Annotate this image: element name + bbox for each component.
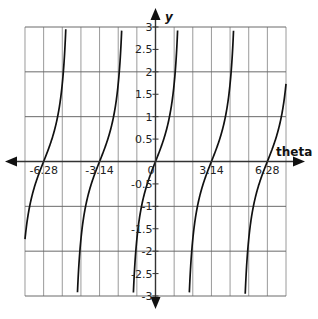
tan-curve-branch [245, 84, 286, 294]
y-tick-label: 2.5 [135, 43, 153, 56]
chart: -6.28-3.1403.146.2832.521.510.5-0.5-1-1.… [0, 0, 318, 319]
y-tick-label: 1.5 [135, 88, 153, 101]
y-tick-label: -3 [142, 290, 153, 303]
x-tick-label: -6.28 [29, 164, 57, 177]
axes [5, 8, 305, 309]
y-tick-label: -1.5 [131, 223, 152, 236]
x-tick-label: 0 [148, 164, 155, 177]
tan-curve-branch [25, 29, 66, 239]
x-tick-label: 6.28 [255, 164, 280, 177]
y-tick-label: -1 [142, 200, 153, 213]
y-tick-label: 0.5 [135, 133, 153, 146]
x-tick-label: 3.14 [199, 164, 224, 177]
y-tick-label: -2 [142, 245, 153, 258]
x-tick-label: -3.14 [85, 164, 113, 177]
y-axis-label: y [165, 10, 174, 24]
y-tick-label: -2.5 [131, 268, 152, 281]
y-axis-arrow-up [151, 8, 161, 20]
x-axis-label: theta [276, 145, 312, 159]
x-axis-arrow-left [5, 157, 17, 167]
y-tick-label: -0.5 [131, 178, 152, 191]
y-tick-label: 2 [146, 66, 153, 79]
y-tick-label: 3 [146, 21, 153, 34]
y-tick-label: 1 [146, 111, 153, 124]
